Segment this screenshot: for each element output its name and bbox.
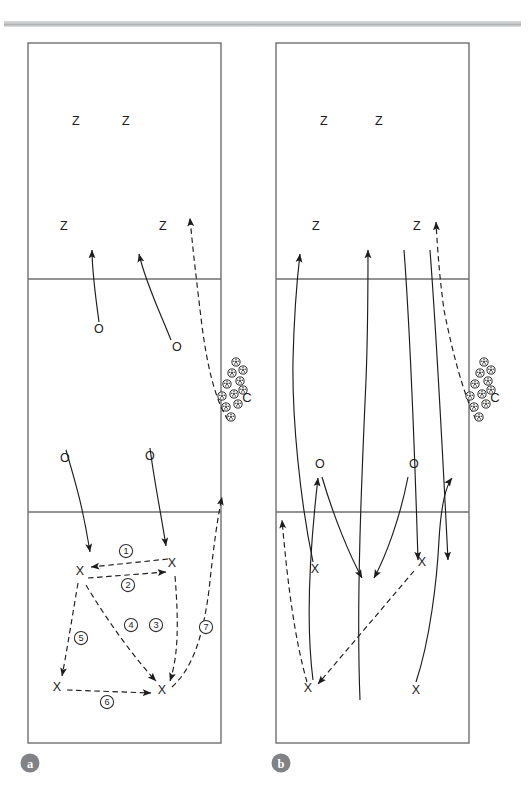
player-marker: O bbox=[60, 451, 70, 465]
volleyball-icon bbox=[480, 358, 488, 366]
svg-text:5: 5 bbox=[78, 633, 83, 643]
player-marker: Z bbox=[159, 219, 167, 233]
player-marker: O bbox=[409, 457, 419, 471]
player-marker: O bbox=[315, 457, 325, 471]
ball-path-a-2 bbox=[88, 572, 166, 578]
ball-path-a-6 bbox=[67, 690, 151, 693]
svg-text:7: 7 bbox=[203, 622, 208, 632]
player-marker: Z bbox=[312, 219, 320, 233]
player-marker: O bbox=[172, 340, 182, 354]
ball-path-b-2 bbox=[282, 520, 307, 682]
panel-a: Z Z Z Z O O O O X X X X C 1234567 bbox=[28, 43, 252, 743]
volleyball-icon bbox=[227, 413, 235, 421]
players-a: Z Z Z Z O O O O X X X X bbox=[53, 114, 182, 697]
dig-arrow-b-1 bbox=[322, 477, 362, 578]
svg-text:1: 1 bbox=[123, 546, 128, 556]
svg-text:6: 6 bbox=[104, 697, 109, 707]
ball-path-b-1 bbox=[318, 571, 414, 684]
player-marker: X bbox=[412, 683, 421, 697]
player-marker: X bbox=[418, 555, 427, 569]
move-arrow-a-3 bbox=[66, 450, 90, 552]
player-marker: X bbox=[53, 680, 62, 694]
coach-marker: C bbox=[490, 390, 500, 405]
sequence-marker-1: 1 bbox=[119, 544, 132, 557]
volleyball-icon bbox=[478, 390, 486, 398]
volleyball-icon bbox=[470, 403, 478, 411]
volleyball-icon bbox=[230, 390, 238, 398]
player-marker: X bbox=[311, 562, 320, 576]
volleyball-icon bbox=[223, 380, 231, 388]
sequence-marker-7: 7 bbox=[199, 620, 212, 633]
ball-path-a-5 bbox=[62, 583, 78, 676]
ball-path-a-7 bbox=[172, 497, 222, 687]
player-marker: Z bbox=[72, 114, 80, 128]
court-outline-b bbox=[276, 43, 469, 743]
drill-diagram-canvas: Z Z Z Z O O O O X X X X C 1234567 bbox=[0, 0, 529, 808]
player-marker: Z bbox=[375, 114, 383, 128]
dig-arrow-b-4 bbox=[430, 250, 448, 560]
volleyball-icon bbox=[239, 366, 247, 374]
volleyball-icon bbox=[218, 392, 226, 400]
volleyball-icon bbox=[236, 377, 244, 385]
court-outline-a bbox=[28, 43, 221, 743]
volleyball-icon bbox=[484, 377, 492, 385]
volleyball-icon bbox=[228, 369, 236, 377]
panel-badge-label-b: b bbox=[278, 757, 285, 771]
volleyball-icon bbox=[482, 400, 490, 408]
sequence-marker-2: 2 bbox=[121, 578, 134, 591]
panel-b: Z Z Z Z O O X X X X C bbox=[276, 43, 500, 743]
player-marker: X bbox=[168, 556, 177, 570]
attack-arrow-b-1 bbox=[293, 254, 313, 562]
sequence-marker-5: 5 bbox=[74, 631, 87, 644]
volleyball-icon bbox=[476, 369, 484, 377]
sequence-markers-a: 1234567 bbox=[74, 544, 212, 708]
sequence-marker-6: 6 bbox=[100, 695, 113, 708]
pass-arrow-a-2 bbox=[139, 254, 171, 340]
player-marker: X bbox=[76, 564, 85, 578]
volleyball-icon bbox=[487, 366, 495, 374]
volleyball-icon bbox=[222, 403, 230, 411]
move-arrow-b-1 bbox=[309, 478, 318, 680]
ball-path-a-3 bbox=[170, 576, 177, 681]
player-marker: O bbox=[145, 449, 155, 463]
ball-paths-b bbox=[282, 222, 476, 684]
volleyball-icon bbox=[234, 400, 242, 408]
figure-root: Z Z Z Z O O O O X X X X C 1234567 bbox=[0, 0, 529, 808]
player-marker: X bbox=[304, 681, 313, 695]
player-marker: O bbox=[94, 322, 104, 336]
volleyball-icon bbox=[471, 380, 479, 388]
serve-arrow-a bbox=[190, 218, 228, 420]
panel-badge-label-a: a bbox=[27, 757, 34, 771]
serve-arrow-b bbox=[436, 222, 476, 420]
pass-arrow-a-1 bbox=[92, 250, 99, 322]
player-marker: Z bbox=[413, 219, 421, 233]
volleyball-icon bbox=[466, 392, 474, 400]
move-arrow-b-2 bbox=[416, 478, 452, 682]
ball-path-a-4 bbox=[86, 585, 156, 681]
movement-paths-b bbox=[293, 250, 452, 700]
player-marker: Z bbox=[320, 114, 328, 128]
dig-arrow-b-2 bbox=[374, 477, 408, 578]
svg-text:3: 3 bbox=[153, 620, 158, 630]
coach-marker: C bbox=[242, 390, 252, 405]
svg-text:2: 2 bbox=[125, 580, 130, 590]
attack-arrow-b-2 bbox=[359, 250, 368, 700]
player-marker: X bbox=[158, 683, 167, 697]
ball-path-a-1 bbox=[91, 559, 168, 567]
player-marker: Z bbox=[122, 114, 130, 128]
volleyball-icon bbox=[232, 358, 240, 366]
svg-text:4: 4 bbox=[128, 620, 133, 630]
panel-badge-b: b bbox=[272, 754, 291, 773]
panel-badge-a: a bbox=[21, 754, 40, 773]
volleyball-icon bbox=[475, 413, 483, 421]
sequence-marker-4: 4 bbox=[124, 618, 137, 631]
sequence-marker-3: 3 bbox=[149, 618, 162, 631]
player-marker: Z bbox=[60, 219, 68, 233]
dig-arrow-b-3 bbox=[404, 250, 418, 560]
